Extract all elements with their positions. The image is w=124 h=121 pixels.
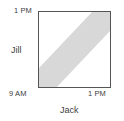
x-axis-title: Jack — [60, 105, 79, 116]
y-axis-max-tick-label: 1 PM — [14, 6, 32, 15]
y-axis-title: Jill — [11, 45, 22, 56]
overlap-band-polygon — [39, 12, 110, 87]
plot-area — [38, 11, 111, 88]
x-axis-max-tick-label: 1 PM — [88, 89, 106, 98]
chart-figure: 1 PM 9 AM 1 PM Jill Jack — [0, 0, 124, 121]
x-axis-min-tick-label: 9 AM — [9, 89, 27, 98]
overlap-band-region — [39, 12, 110, 87]
